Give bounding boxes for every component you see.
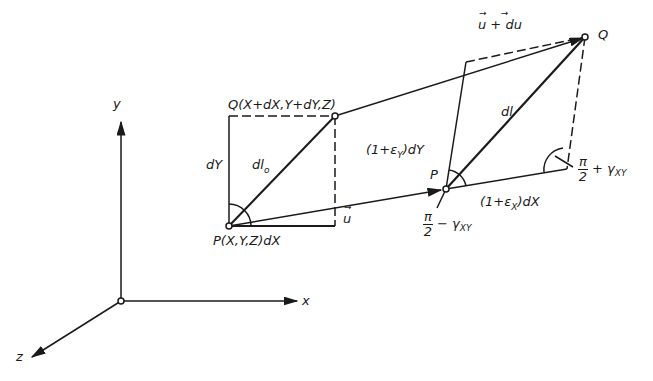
diagram-lines — [0, 0, 653, 381]
side-y-length-label: (1+εY)dY — [366, 143, 424, 160]
y-axis-label: y — [113, 97, 121, 110]
dl-label: dl — [501, 105, 513, 118]
angle-pi-half-plus-gamma-label: π2 + γXY — [578, 155, 626, 183]
point-p-deformed-label: P — [430, 168, 438, 181]
point-q-deformed-label: Q — [598, 28, 608, 41]
displacement-u-plus-du-label: → →u + du — [478, 18, 522, 31]
angle-pi-half-minus-gamma-label: π2 − γXY — [423, 210, 471, 238]
z-axis-label: z — [16, 350, 23, 363]
side-x-length-label: (1+εX)dX — [480, 195, 540, 212]
displacement-u-label: →u — [343, 212, 351, 225]
dy-label: dY — [206, 158, 222, 171]
z-axis — [32, 301, 121, 357]
dl0-label: dlo — [252, 158, 269, 175]
deformation-diagram: y x z Q(X+dX,Y+dY,Z) dY dlo P(X,Y,Z)dX →… — [0, 0, 653, 381]
point-p-undeformed-label: P(X,Y,Z)dX — [213, 234, 281, 247]
x-axis-label: x — [302, 294, 310, 307]
point-q-undeformed-label: Q(X+dX,Y+dY,Z) — [228, 98, 336, 111]
